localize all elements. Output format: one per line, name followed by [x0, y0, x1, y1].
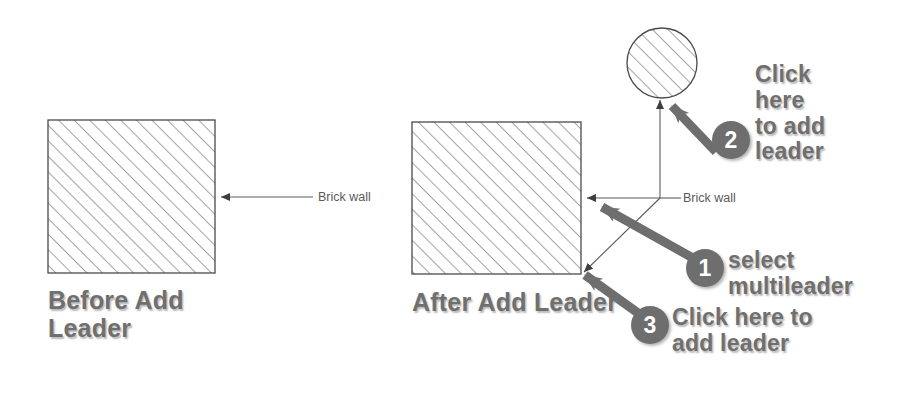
- caption-after-add-leader: After Add Leader: [412, 288, 617, 316]
- brick-wall-square-after: [412, 122, 581, 274]
- after-panel-circle: [627, 28, 697, 98]
- step-badge-1: 1: [686, 249, 724, 287]
- callout-arrows: [585, 106, 716, 318]
- brick-wall-label-before: Brick wall: [318, 190, 371, 204]
- brick-wall-label-after: Brick wall: [683, 191, 736, 205]
- step-2-text: Click here to add leader: [755, 62, 825, 165]
- before-panel-square: [48, 120, 215, 273]
- step-badge-3: 3: [631, 306, 669, 344]
- after-panel-square: [412, 122, 581, 274]
- caption-before-add-leader: Before Add Leader: [48, 286, 184, 342]
- callout-arrow-2: [672, 106, 716, 152]
- hatched-circle: [627, 28, 697, 98]
- step-badge-2: 2: [712, 121, 750, 159]
- step-3-text: Click here to add leader: [672, 305, 813, 357]
- diagram-canvas: Brick wall Brick wall Before Add Leader …: [0, 0, 924, 410]
- step-1-text: select multileader: [728, 248, 853, 300]
- brick-wall-square-before: [48, 120, 215, 273]
- callout-arrow-1: [602, 207, 700, 262]
